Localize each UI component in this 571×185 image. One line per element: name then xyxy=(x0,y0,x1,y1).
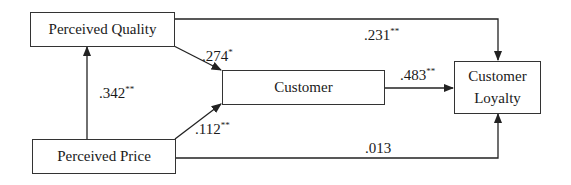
coef-quality-to-customer: .274* xyxy=(202,47,233,65)
node-label: Perceived Quality xyxy=(49,19,157,41)
node-label-line2: Loyalty xyxy=(474,88,521,110)
node-customer: Customer xyxy=(222,70,385,105)
coef-customer-to-loyalty: .483** xyxy=(400,66,435,84)
node-customer-loyalty: Customer Loyalty xyxy=(454,61,541,114)
coef-quality-to-loyalty: .231** xyxy=(364,26,399,44)
node-perceived-price: Perceived Price xyxy=(32,139,176,174)
node-label-line1: Customer xyxy=(468,66,526,88)
coef-price-to-customer: .112** xyxy=(195,120,230,138)
coef-price-to-quality: .342** xyxy=(99,84,134,102)
node-perceived-quality: Perceived Quality xyxy=(30,12,175,47)
node-label: Customer xyxy=(274,77,332,99)
node-label: Perceived Price xyxy=(57,146,151,168)
coef-price-to-loyalty: .013 xyxy=(365,140,391,157)
